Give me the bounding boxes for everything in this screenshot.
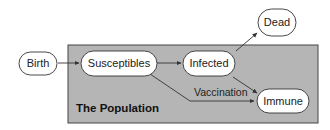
node-dead: Dead [258, 9, 296, 36]
svg-text:Dead: Dead [264, 16, 290, 28]
svg-text:Infected: Infected [189, 57, 228, 69]
node-immune: Immune [257, 89, 309, 113]
svg-text:Birth: Birth [27, 57, 50, 69]
flow-diagram: The Population Vaccination Birth Suscept… [0, 0, 330, 130]
svg-text:Susceptibles: Susceptibles [88, 57, 151, 69]
edge-label-vaccination: Vaccination [194, 86, 248, 98]
node-infected: Infected [183, 51, 235, 76]
node-birth: Birth [19, 52, 57, 75]
population-region-label: The Population [76, 102, 159, 114]
node-susceptibles: Susceptibles [81, 51, 157, 76]
svg-text:Immune: Immune [263, 95, 303, 107]
